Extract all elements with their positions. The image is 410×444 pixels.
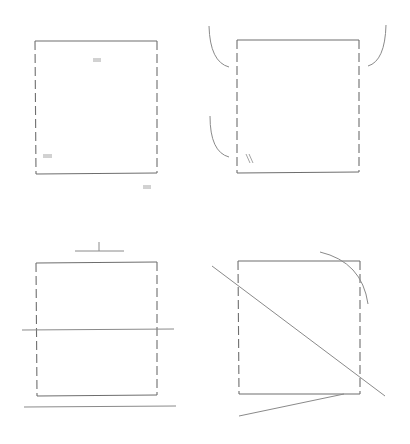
rect-bottom-edge: [36, 173, 157, 174]
panel-top-right: [209, 25, 386, 173]
rect-top-edge: [36, 262, 157, 263]
arc-lower-left: [210, 116, 229, 157]
arc-upper-right: [368, 25, 386, 66]
panel-bottom-left: [22, 242, 176, 407]
geometry-diagram: [0, 0, 410, 444]
diagonal-line: [212, 266, 385, 396]
rect-bottom-edge: [37, 395, 157, 396]
horizontal-line-below: [24, 406, 176, 407]
rect-bottom-edge: [237, 172, 359, 173]
corner-arc: [320, 252, 368, 304]
equal-tick-mark-bottom-left: [43, 155, 52, 157]
arc-upper-left: [209, 26, 229, 67]
double-slash-mark: [246, 154, 253, 163]
horizontal-line-middle: [22, 329, 174, 330]
rect-left-edge: [238, 261, 239, 394]
equal-tick-mark-outside: [143, 186, 151, 188]
slanted-line: [239, 394, 344, 416]
rectangle: [238, 261, 360, 394]
rectangle: [237, 40, 359, 173]
panel-top-left: [35, 41, 157, 188]
panel-bottom-right: [212, 252, 385, 416]
equal-tick-mark-top: [93, 59, 101, 61]
rect-left-edge: [35, 41, 36, 174]
perpendicular-mark: [75, 242, 124, 251]
